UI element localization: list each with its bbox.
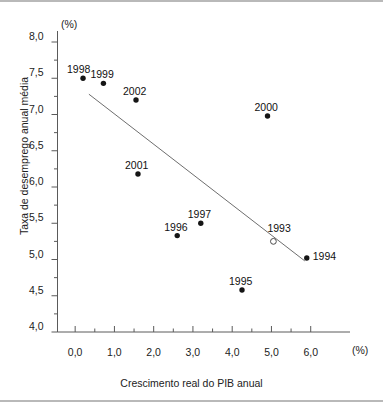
y-tick-label: 7,5 [29,67,59,77]
y-tick-label: 5,0 [29,249,59,259]
y-tick-label: 5,5 [29,212,59,222]
y-tick-label: 4,0 [29,321,59,331]
x-tick-label: 2,0 [136,346,172,358]
y-tick-label: 4,5 [29,285,59,295]
data-point-label: 1997 [188,208,211,220]
y-tick-label: 7,0 [29,104,59,114]
x-tick-label: 1,0 [96,346,132,358]
y-tick-label: 8,0 [29,31,59,41]
data-point-label: 2001 [125,159,148,171]
data-point-label: 1999 [90,68,113,80]
data-point-label: 1996 [164,221,187,233]
data-point-label: 2000 [255,101,278,113]
x-tick-label: 0,0 [57,346,93,358]
plot-area [0,2,383,402]
chart-figure: (%) (%) Taxa de desemprego anual média C… [0,0,383,402]
data-point-label: 1993 [267,222,290,234]
data-point-label: 1995 [229,275,252,287]
data-point-label: 1994 [313,250,336,262]
x-tick-label: 3,0 [175,346,211,358]
x-tick-label: 4,0 [214,346,250,358]
y-tick-label: 6,5 [29,140,59,150]
data-point-label: 2002 [123,85,146,97]
data-point-label: 1998 [67,63,90,75]
x-tick-label: 6,0 [293,346,329,358]
y-tick-label: 6,0 [29,176,59,186]
x-tick-label: 5,0 [253,346,289,358]
